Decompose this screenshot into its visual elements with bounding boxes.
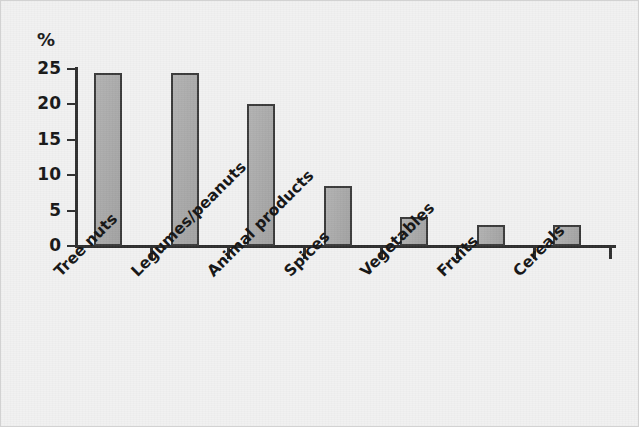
y-axis-tick-label: 10 bbox=[23, 166, 61, 184]
chart-figure: % 0510152025 Tree nutsLegumes/peanutsAni… bbox=[0, 0, 639, 427]
y-axis-tick-label-text: 15 bbox=[27, 131, 61, 148]
x-axis-category-label: Spices bbox=[282, 229, 333, 280]
y-axis-tick-label-text: 0 bbox=[27, 237, 61, 254]
y-axis-tick-label-text: 10 bbox=[27, 166, 61, 183]
y-axis-tick-label: 15 bbox=[23, 131, 61, 149]
y-axis-tick-label: 5 bbox=[23, 202, 61, 220]
y-axis-unit-label: % bbox=[37, 29, 55, 50]
y-axis-tick-label: 0 bbox=[23, 237, 61, 255]
y-axis-line bbox=[75, 67, 78, 248]
y-axis-tick bbox=[67, 103, 76, 105]
y-axis-tick bbox=[67, 139, 76, 141]
x-axis-category-label: Fruits bbox=[435, 233, 481, 279]
x-axis-category-label: Cereals bbox=[511, 223, 568, 280]
x-axis-tick bbox=[609, 248, 612, 259]
plot-area: % 0510152025 Tree nutsLegumes/peanutsAni… bbox=[1, 1, 639, 427]
y-axis-tick bbox=[67, 174, 76, 176]
y-axis-tick bbox=[67, 210, 76, 212]
y-axis-tick bbox=[67, 68, 76, 70]
y-axis-tick-label-text: 25 bbox=[27, 60, 61, 77]
y-axis-tick-label-text: 5 bbox=[27, 202, 61, 219]
y-axis-tick-label-text: 20 bbox=[27, 95, 61, 112]
y-axis-tick-label: 25 bbox=[23, 60, 61, 78]
y-axis-tick-label: 20 bbox=[23, 95, 61, 113]
